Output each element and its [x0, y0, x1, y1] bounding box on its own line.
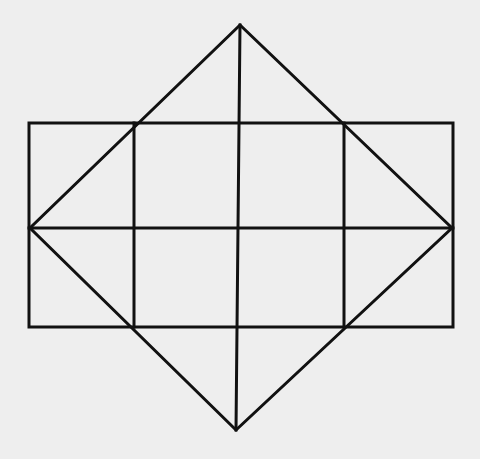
diagram-canvas [0, 0, 480, 459]
geometric-figure [0, 0, 480, 459]
